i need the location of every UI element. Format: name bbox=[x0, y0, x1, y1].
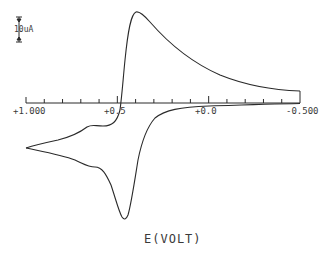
x-tick-label-plus-0-5: +0.5 bbox=[104, 106, 126, 116]
cv-trace-upper-branch bbox=[26, 12, 300, 148]
cv-trace-lower-branch bbox=[26, 104, 300, 220]
x-tick-label-plus-1: +1.000 bbox=[13, 106, 46, 116]
x-tick-label-minus-0-5: -0.500 bbox=[286, 106, 319, 116]
x-axis bbox=[26, 91, 300, 103]
cyclic-voltammogram-plot bbox=[0, 0, 329, 255]
x-axis-ticks bbox=[44, 96, 281, 103]
x-tick-label-zero: +0.0 bbox=[195, 106, 217, 116]
x-axis-title: E(VOLT) bbox=[144, 232, 202, 246]
current-scale-label: 10uA bbox=[14, 25, 33, 34]
